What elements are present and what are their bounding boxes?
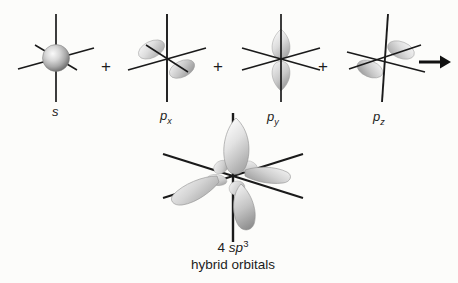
- py-orbital-group: [240, 12, 322, 104]
- right-arrow-icon: [418, 52, 452, 72]
- plus-sign-3: +: [318, 58, 328, 75]
- orbital-hybridization-figure: s +: [0, 0, 458, 283]
- sp3-caption-line-2: hybrid orbitals: [153, 257, 313, 274]
- s-orbital-label: s: [52, 105, 59, 119]
- pz-orbital-icon: [345, 12, 427, 104]
- px-orbital-group: [126, 12, 208, 104]
- s-orbital-group: [16, 12, 96, 104]
- plus-sign-2: +: [213, 58, 223, 75]
- pz-orbital-label: pz: [373, 110, 385, 127]
- py-orbital-icon: [240, 12, 322, 104]
- s-orbital-icon: [16, 12, 96, 104]
- sp3-caption-line-1: 4 sp3: [153, 240, 313, 257]
- pz-orbital-group: [345, 12, 427, 104]
- px-orbital-icon: [126, 12, 208, 104]
- plus-sign-1: +: [101, 58, 111, 75]
- sp3-hybrid-group: [157, 110, 309, 245]
- sp3-hybrid-orbital-icon: [157, 110, 309, 245]
- reaction-arrow-group: [418, 52, 452, 72]
